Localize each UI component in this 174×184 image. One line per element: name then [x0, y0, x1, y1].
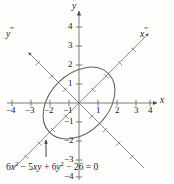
- eq-rhs: = 0: [83, 162, 98, 172]
- x-axis-label: x: [160, 96, 164, 106]
- x-tick-label-minus3: −3: [25, 106, 35, 115]
- y-tick-label-minus2: −2: [64, 136, 74, 145]
- x-tick-label-minus1: −1: [63, 106, 73, 115]
- y-tick-label-minus1: −1: [64, 117, 74, 126]
- x-tick-label-4: 4: [148, 106, 153, 115]
- y-tick-label-2: 2: [68, 60, 73, 69]
- y-double-prime-mark: ″: [10, 25, 14, 35]
- y-tick-label-minus4: −4: [64, 172, 74, 181]
- x-tick-label-3: 3: [134, 106, 139, 115]
- x-tick-label-2: 2: [115, 106, 120, 115]
- x-tick-label-minus4: −4: [6, 106, 16, 115]
- y-double-prime-axis-label: y″: [6, 30, 14, 40]
- x-tick-label-minus2: −2: [44, 106, 54, 115]
- y-tick-label-3: 3: [68, 41, 73, 50]
- eq-var2: xy: [33, 162, 41, 172]
- y-tick-label-4: 4: [68, 22, 73, 31]
- y-axis-label: y: [72, 2, 76, 12]
- eq-op1: −: [18, 162, 28, 172]
- x-double-prime-axis-label: x″: [140, 30, 148, 40]
- eq-op3: −: [64, 162, 74, 172]
- y-tick-label-1: 1: [68, 79, 73, 88]
- conic-equation-label: 6x2 − 5xy + 6y2 − 26 = 0: [6, 163, 98, 173]
- x-tick-label-1: 1: [96, 106, 101, 115]
- eq-op2: +: [42, 162, 52, 172]
- x-double-prime-mark: ″: [144, 25, 148, 35]
